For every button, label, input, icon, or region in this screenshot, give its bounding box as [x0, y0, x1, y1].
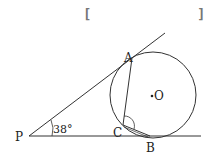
- label-o: O: [154, 89, 164, 103]
- line-pa: [29, 33, 165, 136]
- angle-label-p: 38°: [53, 123, 73, 136]
- label-c: C: [113, 126, 122, 140]
- chord-ac: [123, 58, 132, 125]
- geometry-figure: P A B C O 38°: [0, 0, 217, 157]
- center-dot-o: [151, 95, 154, 98]
- label-p: P: [15, 130, 23, 144]
- label-b: B: [146, 141, 155, 155]
- label-a: A: [123, 51, 133, 65]
